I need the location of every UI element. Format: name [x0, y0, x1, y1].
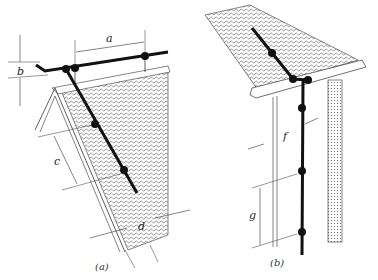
dim-label-b: b	[17, 65, 24, 78]
downpipe	[328, 80, 342, 242]
panel-b: f g (b)	[205, 5, 366, 268]
roof-surface-b	[205, 5, 358, 90]
roof-surface-a	[60, 70, 168, 250]
panel-a: a b c d (a)	[8, 30, 190, 272]
dim-label-c: c	[54, 155, 60, 168]
dim-label-a: a	[106, 32, 113, 45]
dim-label-f: f	[282, 130, 289, 143]
diagram: a b c d (a)	[0, 0, 378, 280]
dim-label-d: d	[138, 220, 145, 233]
caption-a: (a)	[95, 261, 109, 272]
caption-b: (b)	[270, 257, 284, 268]
diagram-canvas: a b c d (a)	[0, 0, 378, 280]
dim-label-g: g	[249, 209, 256, 222]
